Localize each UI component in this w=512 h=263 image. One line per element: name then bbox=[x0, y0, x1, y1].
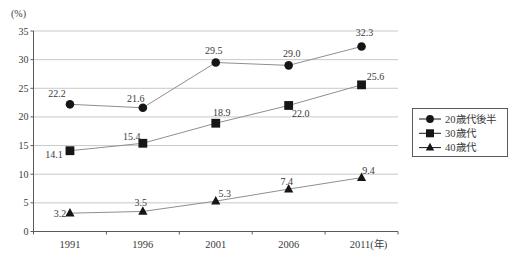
data-point-circle bbox=[139, 103, 148, 112]
data-point-triangle bbox=[65, 208, 74, 217]
legend-label: 30歳代 bbox=[445, 128, 477, 139]
data-point-square bbox=[66, 146, 75, 155]
legend-label: 20歳代後半 bbox=[445, 113, 496, 125]
chart-canvas: (%)0510152025303519911996200120062011(年)… bbox=[0, 0, 512, 263]
data-label: 18.9 bbox=[213, 107, 231, 118]
data-point-square bbox=[211, 119, 220, 128]
x-tick-label: 1996 bbox=[132, 239, 153, 250]
data-label: 21.6 bbox=[127, 93, 145, 104]
data-point-circle bbox=[211, 58, 220, 67]
y-tick-label: 25 bbox=[19, 83, 29, 94]
data-label: 32.3 bbox=[356, 27, 374, 38]
legend: 20歳代後半30歳代40歳代 bbox=[413, 109, 508, 157]
data-point-circle bbox=[426, 115, 434, 123]
data-point-circle bbox=[284, 61, 293, 70]
x-tick-label: 2011(年) bbox=[350, 238, 388, 251]
data-label: 5.3 bbox=[219, 188, 232, 199]
data-point-circle bbox=[66, 100, 75, 109]
y-tick-label: 30 bbox=[19, 54, 29, 65]
y-tick-label: 0 bbox=[24, 226, 29, 237]
data-point-circle bbox=[357, 42, 366, 51]
data-label: 29.5 bbox=[205, 45, 223, 56]
data-point-square bbox=[426, 129, 434, 137]
y-tick-label: 10 bbox=[19, 169, 29, 180]
y-tick-label: 5 bbox=[24, 197, 29, 208]
data-label: 22.0 bbox=[292, 108, 310, 119]
y-tick-label: 15 bbox=[19, 140, 29, 151]
data-label: 3.2 bbox=[54, 208, 67, 219]
x-tick-label: 2006 bbox=[278, 239, 299, 250]
data-label: 7.4 bbox=[280, 176, 293, 187]
data-label: 29.0 bbox=[283, 48, 301, 59]
legend-label: 40歳代 bbox=[445, 142, 477, 153]
y-tick-label: 35 bbox=[19, 26, 29, 37]
series-line bbox=[70, 46, 362, 107]
y-tick-label: 20 bbox=[19, 111, 29, 122]
data-label: 15.4 bbox=[123, 131, 141, 142]
data-label: 22.2 bbox=[48, 88, 66, 99]
x-tick-label: 2001 bbox=[205, 239, 226, 250]
data-label: 14.1 bbox=[45, 149, 63, 160]
data-label: 25.6 bbox=[367, 71, 385, 82]
data-label: 3.5 bbox=[135, 197, 148, 208]
x-tick-label: 1991 bbox=[59, 239, 80, 250]
y-axis-unit-label: (%) bbox=[11, 8, 26, 20]
data-label: 9.4 bbox=[362, 165, 375, 176]
series-line bbox=[70, 178, 362, 214]
data-point-square bbox=[357, 80, 366, 89]
line-chart: (%)0510152025303519911996200120062011(年)… bbox=[0, 0, 512, 263]
